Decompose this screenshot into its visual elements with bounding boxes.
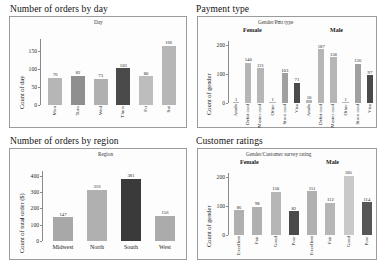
bar[interactable]: 151Excellent bbox=[307, 191, 317, 235]
bar-rect bbox=[257, 68, 263, 103]
bar[interactable]: 98Fair bbox=[252, 207, 262, 235]
bar[interactable]: 97Visa bbox=[367, 75, 373, 103]
panel-title-orders-by-day: Number of orders by day bbox=[10, 4, 185, 15]
y-tick-mark bbox=[40, 208, 42, 209]
bar[interactable]: 136Store card bbox=[355, 64, 361, 103]
bar[interactable]: 140Debit card bbox=[245, 63, 251, 103]
bar[interactable]: 205Good bbox=[344, 176, 354, 235]
bar[interactable]: 158Master card bbox=[330, 57, 336, 103]
bar[interactable]: 166Sat bbox=[162, 46, 176, 105]
x-axis-label: Visa bbox=[294, 104, 300, 113]
bar-value-label: 205 bbox=[345, 170, 352, 175]
bar-value-label: 136 bbox=[354, 58, 361, 63]
x-axis-label: Amdx bbox=[233, 104, 239, 117]
bar-rect bbox=[53, 217, 73, 241]
y-axis-line bbox=[228, 173, 229, 235]
y-tick-label: 150 bbox=[18, 48, 37, 54]
bar[interactable]: 103Thurs bbox=[116, 68, 130, 105]
y-tick-label: 200 bbox=[206, 174, 225, 180]
x-axis-label: Other bbox=[270, 104, 276, 115]
bar[interactable]: 73Wed bbox=[94, 79, 108, 105]
bar[interactable]: 187Debit card bbox=[318, 49, 324, 103]
x-axis-label: West bbox=[159, 244, 171, 251]
bar-value-label: 1 bbox=[271, 97, 273, 102]
y-tick-label: 200 bbox=[206, 42, 225, 48]
y-tick-label: 50 bbox=[18, 84, 37, 90]
bar[interactable]: 381South bbox=[121, 179, 141, 241]
panel-payment-type: Payment type Gender/Pmt type Female Male… bbox=[190, 0, 380, 132]
panel-customer-ratings: Customer ratings Gender/Customer survey … bbox=[190, 132, 380, 264]
bar-rect bbox=[355, 64, 361, 103]
bar-rect bbox=[252, 207, 262, 235]
bar[interactable]: 71Visa bbox=[294, 83, 300, 103]
bar-rect bbox=[121, 179, 141, 241]
bar-rect bbox=[48, 78, 62, 105]
x-axis-label: Sat bbox=[166, 106, 172, 112]
y-tick-label: 100 bbox=[206, 203, 225, 209]
x-axis-label: Poor bbox=[364, 236, 370, 245]
y-tick-label: 100 bbox=[206, 71, 225, 77]
x-axis-line bbox=[42, 241, 182, 242]
bar[interactable]: 114Poor bbox=[362, 202, 372, 235]
bar[interactable]: 121Master card bbox=[257, 68, 263, 103]
x-axis-label: North bbox=[90, 244, 104, 251]
bar[interactable]: 82Poor bbox=[289, 211, 299, 235]
y-tick-label: 300 bbox=[20, 189, 39, 195]
bar-value-label: 166 bbox=[165, 40, 172, 45]
bar-value-label: 82 bbox=[292, 206, 297, 211]
bar-rect bbox=[94, 79, 108, 105]
y-tick-mark bbox=[226, 177, 228, 178]
bar-rect bbox=[116, 68, 130, 105]
bar[interactable]: 80Fri bbox=[139, 76, 153, 105]
bar-rect bbox=[271, 192, 281, 235]
x-axis-label: Mon bbox=[53, 106, 59, 115]
bar-value-label: 98 bbox=[255, 201, 260, 206]
chart-orders-by-region: Region Count of total order ($) 01002003… bbox=[9, 148, 187, 260]
x-axis-label: Debit card bbox=[318, 104, 324, 125]
x-axis-label: Wed bbox=[98, 106, 104, 115]
bar-rect bbox=[282, 73, 288, 103]
bar-rect bbox=[162, 46, 176, 105]
bar-rect bbox=[155, 216, 175, 241]
bar-value-label: 381 bbox=[128, 173, 135, 178]
panel-title-customer-ratings: Customer ratings bbox=[196, 136, 375, 147]
bar[interactable]: 156West bbox=[155, 216, 175, 241]
x-axis-label: Good bbox=[346, 236, 352, 247]
bar[interactable]: 86Excellent bbox=[234, 210, 244, 235]
bar[interactable]: 82Tues bbox=[71, 76, 85, 105]
bar-rect bbox=[234, 210, 244, 235]
bar-value-label: 187 bbox=[318, 44, 325, 49]
x-axis-label: Master card bbox=[331, 104, 337, 128]
bar-value-label: 86 bbox=[237, 205, 242, 210]
y-tick-mark bbox=[226, 74, 228, 75]
y-tick-label: 100 bbox=[18, 66, 37, 72]
bar-value-label: 1 bbox=[344, 97, 346, 102]
bar-value-label: 147 bbox=[60, 212, 67, 217]
y-axis-line bbox=[40, 39, 41, 105]
x-axis-line bbox=[228, 235, 376, 236]
x-axis-label: Fair bbox=[328, 236, 334, 244]
x-axis-label: Store card bbox=[282, 104, 288, 124]
bar[interactable]: 76Mon bbox=[48, 78, 62, 105]
bar[interactable]: 112Fair bbox=[325, 203, 335, 235]
bar[interactable]: 150Good bbox=[271, 192, 281, 235]
bar-rect bbox=[367, 75, 373, 103]
bar-value-label: 156 bbox=[162, 210, 169, 215]
x-axis-label: Poor bbox=[291, 236, 297, 245]
bar[interactable]: 147Midwest bbox=[53, 217, 73, 241]
x-axis-label: Master card bbox=[258, 104, 264, 128]
bar-rect bbox=[294, 83, 300, 103]
bar[interactable]: 316North bbox=[87, 190, 107, 241]
bar-value-label: 103 bbox=[120, 63, 127, 68]
y-axis-line bbox=[42, 171, 43, 241]
chart-customer-ratings: Gender/Customer survey rating Female Mal… bbox=[197, 148, 377, 260]
x-axis-label: Fair bbox=[255, 236, 261, 244]
bar[interactable]: 103Store card bbox=[282, 73, 288, 103]
bar-value-label: 316 bbox=[94, 184, 101, 189]
bar-value-label: 82 bbox=[76, 70, 81, 75]
y-tick-label: 400 bbox=[20, 173, 39, 179]
y-tick-label: 0 bbox=[206, 100, 225, 106]
bar-rect bbox=[245, 63, 251, 103]
bar-rect bbox=[87, 190, 107, 241]
y-tick-mark bbox=[226, 45, 228, 46]
